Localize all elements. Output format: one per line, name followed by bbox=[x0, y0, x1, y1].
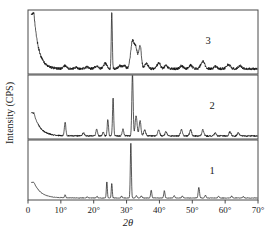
y-axis-title: Intensity (CPS) bbox=[4, 82, 16, 144]
xrd-figure: 321 010°20°30°40°50°60°70° 2θ Intensity … bbox=[0, 0, 271, 234]
panel-label-1: 1 bbox=[209, 165, 214, 176]
xrd-trace-1 bbox=[31, 143, 258, 198]
panel-label-2: 2 bbox=[209, 100, 214, 111]
panels-group: 321 bbox=[28, 10, 258, 200]
x-axis-tick-label: 60° bbox=[219, 205, 232, 215]
panel-frame bbox=[28, 75, 258, 139]
x-axis-tick-label: 30° bbox=[120, 205, 133, 215]
x-axis-tick-label: 0 bbox=[26, 205, 31, 215]
x-axis-tick-label: 20° bbox=[87, 205, 100, 215]
x-axis-tick-label: 50° bbox=[186, 205, 199, 215]
x-axis-tick-label: 10° bbox=[55, 205, 68, 215]
x-axis-tick-label: 40° bbox=[153, 205, 166, 215]
x-axis-tick-label: 70° bbox=[252, 205, 265, 215]
panel-frame bbox=[28, 10, 258, 74]
xrd-chart: 321 010°20°30°40°50°60°70° 2θ Intensity … bbox=[0, 0, 271, 234]
xrd-trace-2 bbox=[31, 73, 258, 137]
panel-frame bbox=[28, 140, 258, 200]
x-axis-title: 2θ bbox=[123, 217, 133, 228]
xrd-trace-3 bbox=[31, 12, 258, 70]
panel-label-3: 3 bbox=[205, 35, 210, 46]
x-axis: 010°20°30°40°50°60°70° bbox=[26, 200, 265, 215]
